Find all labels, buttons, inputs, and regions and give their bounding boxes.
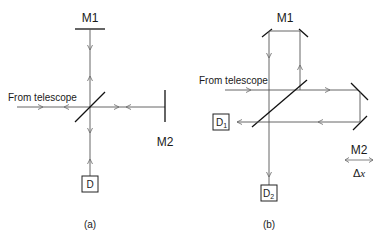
mirror-m1-b-left	[262, 29, 272, 37]
label-m1-b: M1	[277, 11, 294, 25]
label-from-telescope-b: From telescope	[199, 75, 268, 86]
label-from-telescope-a: From telescope	[8, 92, 77, 103]
caption-a: (a)	[84, 219, 96, 230]
label-m2-b: M2	[351, 143, 368, 157]
panel-a: M1 M2 From telescope D (a)	[8, 11, 174, 230]
interferometer-diagram: M1 M2 From telescope D (a) M1	[0, 0, 380, 239]
double-arrow-icon	[345, 158, 373, 163]
label-m2-a: M2	[157, 135, 174, 149]
beamsplitter-b	[252, 80, 307, 127]
mirror-m2-b-top	[351, 83, 368, 100]
caption-b: (b)	[263, 219, 275, 230]
panel-b: M1 From telescope D1 D2 M2	[199, 11, 373, 230]
label-m1-a: M1	[82, 11, 99, 25]
label-detector-a: D	[86, 179, 93, 190]
label-delta-x: Δx	[353, 167, 365, 179]
